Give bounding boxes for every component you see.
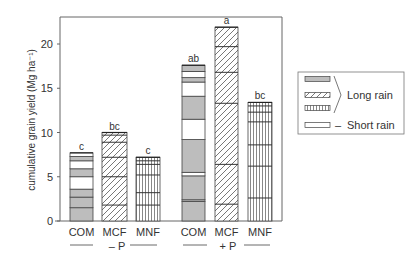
- bar-segment: [182, 172, 205, 176]
- bar-com-minus-p: c: [70, 141, 93, 221]
- x-category-label: MNF: [248, 226, 272, 238]
- legend-label-long-rain: Long rain: [347, 89, 393, 101]
- bar-segment: [182, 71, 205, 77]
- bar-body: [136, 157, 160, 221]
- significance-letter: a: [224, 15, 230, 26]
- bar-segment: [70, 177, 93, 189]
- bar-segment: [70, 156, 93, 160]
- significance-letter: bc: [109, 121, 120, 132]
- significance-letter: bc: [255, 90, 266, 101]
- y-tick-label: 20: [41, 38, 53, 50]
- bar-mcf-plus-p: a: [215, 15, 238, 221]
- legend-label-short-rain: Short rain: [347, 119, 395, 131]
- bar-segment: [182, 65, 205, 71]
- legend-swatch-white: [305, 123, 330, 128]
- x-category-label: MCF: [103, 226, 127, 238]
- y-tick-label: 0: [47, 215, 53, 227]
- bar-com-plus-p: ab: [182, 53, 205, 221]
- bar-segment: [70, 169, 93, 177]
- bar-segment: [182, 96, 205, 119]
- significance-letter: c: [79, 141, 84, 152]
- bar-mnf-plus-p: bc: [248, 90, 272, 221]
- bar-mcf-minus-p: bc: [102, 121, 127, 222]
- group-label: – P: [109, 240, 126, 252]
- bar-body: [215, 27, 238, 221]
- grain-yield-chart: 05101520 cumulative grain yield (Mg ha⁻¹…: [0, 0, 419, 262]
- bar-segment: [182, 202, 205, 221]
- bar-segment: [182, 140, 205, 173]
- bar-mnf-minus-p: c: [136, 145, 160, 221]
- x-axis: COMMCFMNFCOMMCFMNF– P+ P: [69, 226, 273, 252]
- bar-segment: [70, 161, 93, 169]
- significance-letter: ab: [188, 53, 200, 64]
- bar-segment: [182, 82, 205, 96]
- bar-segment: [182, 119, 205, 139]
- x-category-label: COM: [181, 226, 207, 238]
- legend-swatch-gray: [305, 77, 330, 82]
- y-axis-label: cumulative grain yield (Mg ha⁻¹): [26, 49, 37, 191]
- y-tick-label: 15: [41, 82, 53, 94]
- significance-letter: c: [146, 145, 151, 156]
- legend-swatch-vertical: [305, 106, 330, 111]
- legend: Long rain–Short rain: [298, 72, 404, 134]
- bar-segment: [182, 176, 205, 200]
- x-category-label: MNF: [136, 226, 160, 238]
- bar-segment: [70, 197, 93, 208]
- bar-body: [248, 102, 272, 221]
- bars: cbccababc: [70, 15, 272, 221]
- y-tick-label: 5: [47, 171, 53, 183]
- x-category-label: MCF: [215, 226, 239, 238]
- bar-segment: [70, 208, 93, 221]
- x-category-label: COM: [69, 226, 95, 238]
- y-tick-label: 10: [41, 127, 53, 139]
- group-label: + P: [220, 240, 237, 252]
- bar-segment: [182, 78, 205, 82]
- legend-dash: –: [335, 119, 342, 131]
- bar-segment: [70, 189, 93, 197]
- legend-swatch-hatched: [305, 93, 330, 98]
- y-axis: 05101520: [41, 38, 60, 227]
